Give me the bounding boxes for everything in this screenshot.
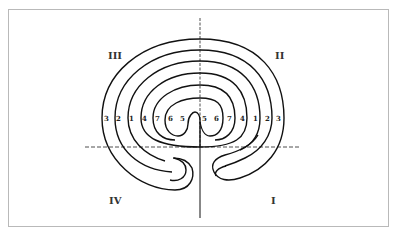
circuit-number: 5 bbox=[180, 114, 185, 123]
quadrant-label-top-left: III bbox=[108, 50, 122, 61]
quadrant-label-top-right: II bbox=[275, 50, 285, 61]
labyrinth-diagram: 3 2 1 4 7 6 5 5 6 7 4 1 2 3 III II IV I bbox=[0, 0, 396, 237]
circuit-number: 6 bbox=[214, 114, 219, 123]
circuit-number: 1 bbox=[253, 114, 258, 123]
circuit-number: 6 bbox=[168, 114, 173, 123]
quadrant-label-bottom-right: I bbox=[271, 195, 276, 206]
circuit-number: 3 bbox=[104, 114, 109, 123]
circuit-number: 2 bbox=[116, 114, 121, 123]
quadrant-label-bottom-left: IV bbox=[109, 195, 122, 206]
circuit-number: 1 bbox=[129, 114, 134, 123]
circuit-number: 7 bbox=[155, 114, 160, 123]
circuit-numbers-right: 5 6 7 4 1 2 3 bbox=[202, 114, 281, 123]
circuit-number: 3 bbox=[276, 114, 281, 123]
circuit-number: 5 bbox=[202, 114, 207, 123]
circuit-number: 7 bbox=[227, 114, 232, 123]
circuit-number: 4 bbox=[142, 114, 147, 123]
circuit-number: 4 bbox=[240, 114, 245, 123]
circuit-number: 2 bbox=[265, 114, 270, 123]
circuit-numbers-left: 3 2 1 4 7 6 5 bbox=[104, 114, 185, 123]
